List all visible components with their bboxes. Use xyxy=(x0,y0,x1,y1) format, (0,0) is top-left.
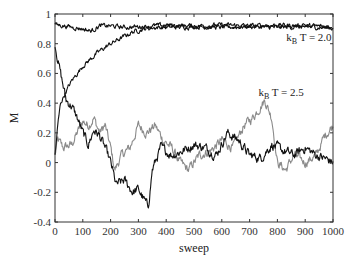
y-tick-label: -0.4 xyxy=(34,216,52,228)
x-tick-label: 500 xyxy=(186,225,203,237)
y-tick-label: 0 xyxy=(46,157,52,169)
x-tick-label: 100 xyxy=(75,225,92,237)
y-tick-label: 0.6 xyxy=(37,67,51,79)
y-tick-label: 1 xyxy=(46,8,52,20)
y-tick-label: -0.2 xyxy=(34,186,51,198)
x-tick-label: 0 xyxy=(52,225,58,237)
series-layer xyxy=(55,22,333,208)
magnetization-chart: 01002003004005006007008009001000 -0.4-0.… xyxy=(0,0,357,262)
x-tick-label: 400 xyxy=(158,225,175,237)
y-tick-label: 0.4 xyxy=(37,97,51,109)
x-tick-label: 900 xyxy=(297,225,314,237)
y-tick-label: 0.2 xyxy=(37,127,51,139)
x-tick-label: 200 xyxy=(102,225,119,237)
x-tick-label: 600 xyxy=(214,225,231,237)
x-tick-label: 1000 xyxy=(322,225,345,237)
y-tick-label: 0.8 xyxy=(37,38,51,50)
y-axis-label: M xyxy=(7,112,21,123)
series-annotation: kB T = 2.5 xyxy=(258,86,304,101)
annotations: kB T = 2.0kB T = 2.5 xyxy=(258,31,332,101)
x-tick-label: 300 xyxy=(130,225,147,237)
x-axis-label: sweep xyxy=(179,241,209,255)
x-tick-label: 800 xyxy=(269,225,286,237)
x-tick-label: 700 xyxy=(241,225,258,237)
series-annotation: kB T = 2.0 xyxy=(286,31,332,46)
